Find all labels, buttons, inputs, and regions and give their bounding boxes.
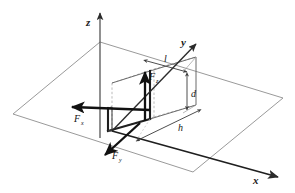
axis-label-x: x [252,174,259,186]
force-label-Fy-subscript: y [118,157,122,163]
force-label-Fy: F y [111,150,122,163]
axis-label-y: y [179,36,186,48]
force-label-Fx-subscript: x [80,120,84,126]
figure-canvas: z y x l d h F x F y F z [0,0,295,193]
dimension-label-l: l [164,53,167,64]
force-diagram-figure: z y x l d h F x F y F z [0,0,295,193]
axis-label-z: z [85,16,91,28]
dimension-label-h: h [178,122,183,133]
force-label-Fz-base: F [148,71,156,82]
force-label-Fy-base: F [111,150,119,161]
force-label-Fx-base: F [73,113,81,124]
